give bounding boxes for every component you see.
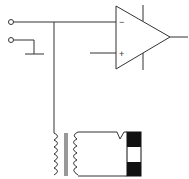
secondary-kink [117,132,127,139]
circuit-diagram: − + [0,0,189,179]
terminal-2-wire [14,40,35,54]
minus-sign: − [119,17,124,27]
load-block-bottom [127,162,141,176]
input-terminal-2 [9,38,14,43]
plus-sign: + [119,49,124,59]
input-terminal-1 [9,20,14,25]
transformer-secondary-coil [74,132,79,175]
transformer-primary-coil [54,133,58,175]
load-block-top [127,132,141,147]
